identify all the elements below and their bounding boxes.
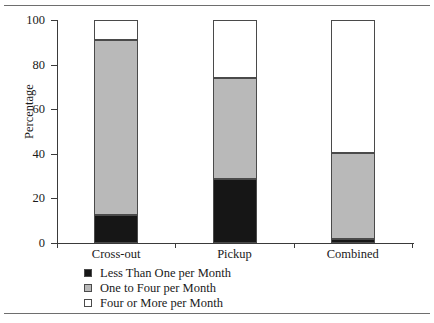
legend-label: One to Four per Month	[100, 282, 216, 295]
legend-label: Four or More per Month	[100, 297, 223, 310]
chart-legend: Less Than One per MonthOne to Four per M…	[84, 266, 231, 311]
y-axis-tick-label: 80	[5, 58, 45, 71]
legend-swatch-white	[84, 299, 92, 307]
legend-swatch-gray	[84, 284, 92, 292]
legend-item: Four or More per Month	[84, 296, 231, 310]
legend-label: Less Than One per Month	[100, 267, 231, 280]
bar-segment	[213, 20, 257, 78]
legend-item: One to Four per Month	[84, 281, 231, 295]
y-axis-tick-label: 20	[5, 192, 45, 205]
stacked-bar	[331, 20, 375, 243]
stacked-bar	[94, 20, 138, 243]
bar-segment	[213, 179, 257, 243]
x-axis-category-label: Combined	[293, 247, 413, 262]
x-axis-line	[57, 243, 414, 244]
legend-item: Less Than One per Month	[84, 266, 231, 280]
figure-top-rule	[4, 5, 430, 6]
stacked-bar-chart-figure: Percentage 100806040200 Cross-outPickupC…	[0, 0, 434, 323]
y-axis-tick-label: 100	[5, 14, 45, 27]
y-axis-tick-label: 40	[5, 148, 45, 161]
stacked-bar	[213, 20, 257, 243]
bar-segment	[94, 20, 138, 40]
y-axis-tick-label: 60	[5, 103, 45, 116]
y-axis-tick-label: 0	[5, 237, 45, 250]
x-axis-category-label: Cross-out	[56, 247, 176, 262]
x-axis-category-label: Pickup	[175, 247, 295, 262]
bar-segment	[94, 215, 138, 243]
plot-area	[57, 20, 412, 243]
bar-segment	[331, 239, 375, 243]
bar-segment	[94, 40, 138, 215]
bar-segment	[331, 20, 375, 153]
bar-segment	[331, 153, 375, 239]
figure-bottom-rule	[4, 313, 430, 314]
bar-segment	[213, 78, 257, 179]
legend-swatch-black	[84, 269, 92, 277]
